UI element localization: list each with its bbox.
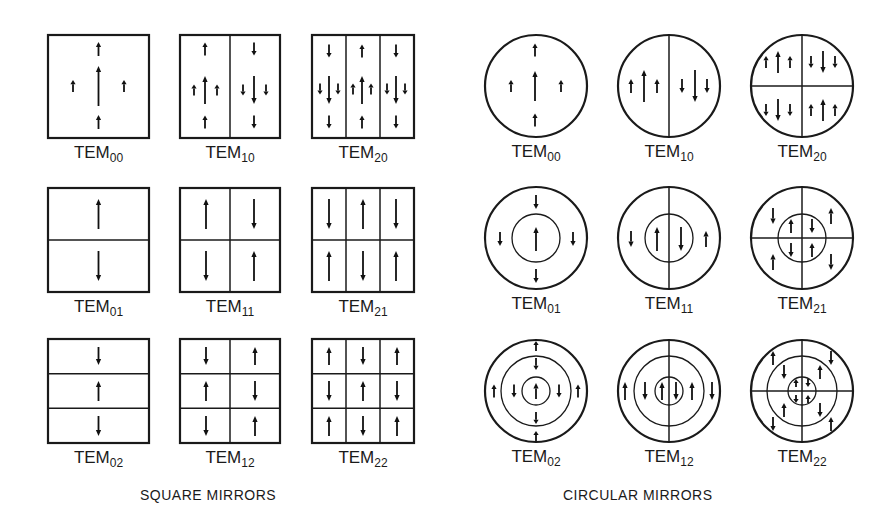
arrow-down-icon (533, 269, 538, 283)
arrow-up-icon (203, 381, 208, 401)
arrow-down-icon (393, 199, 398, 229)
arrow-up-icon (326, 347, 331, 365)
arrow-up-icon (703, 231, 708, 247)
arrow-down-icon (788, 243, 793, 257)
arrow-down-icon (673, 382, 678, 400)
arrow-up-icon (96, 115, 101, 129)
circular-mirrors-caption: CIRCULAR MIRRORS (563, 487, 713, 503)
arrow-up-icon (805, 395, 810, 403)
arrow-up-icon (202, 116, 207, 129)
circular-mode-tem01: TEM01 (485, 187, 587, 316)
arrow-down-icon (384, 84, 389, 95)
arrow-up-icon (96, 381, 101, 401)
arrow-up-icon (828, 417, 833, 431)
arrow-down-icon (360, 347, 365, 365)
mode-label: TEM11 (645, 294, 694, 316)
mode-label: TEM20 (338, 143, 388, 165)
arrow-up-icon (252, 347, 257, 365)
arrow-up-icon (628, 79, 633, 93)
arrow-down-icon (793, 395, 798, 403)
arrow-down-icon (96, 251, 101, 281)
arrow-down-icon (808, 56, 813, 68)
mode-label: TEM21 (338, 297, 388, 319)
arrow-up-icon (96, 42, 101, 56)
arrow-down-icon (692, 70, 697, 102)
arrow-down-icon (326, 116, 331, 129)
arrow-up-icon (558, 80, 563, 92)
arrow-up-icon (575, 385, 580, 398)
arrow-down-icon (533, 412, 538, 424)
arrow-up-icon (360, 199, 365, 229)
arrow-up-icon (820, 99, 825, 121)
arrow-down-icon (556, 385, 561, 398)
mode-label: TEM20 (777, 142, 827, 164)
arrow-up-icon (350, 84, 355, 95)
mode-label: TEM02 (74, 448, 124, 470)
arrow-down-icon (393, 45, 398, 58)
mode-label: TEM10 (644, 142, 694, 164)
arrow-up-icon (368, 84, 373, 95)
square-mode-tem02: TEM02 (48, 339, 149, 470)
square-mode-tem00: TEM00 (48, 35, 149, 165)
arrow-down-icon (533, 195, 538, 209)
arrow-up-icon (793, 379, 798, 387)
arrow-down-icon (678, 227, 683, 251)
arrow-down-icon (335, 84, 340, 95)
square-mode-tem20: TEM20 (312, 35, 414, 165)
arrow-up-icon (654, 79, 659, 93)
arrow-up-icon (641, 70, 646, 102)
arrow-down-icon (393, 76, 398, 104)
mode-label: TEM11 (206, 297, 255, 319)
arrow-down-icon (770, 208, 775, 224)
arrow-up-icon (96, 66, 101, 106)
arrow-up-icon (689, 382, 694, 400)
circular-mode-tem22: TEM22 (751, 340, 853, 469)
square-mode-tem22: TEM22 (312, 339, 414, 470)
arrow-up-icon (202, 43, 207, 56)
square-mode-tem01: TEM01 (48, 188, 149, 319)
mode-label: TEM12 (644, 447, 694, 469)
circular-mode-tem02: TEM02 (485, 340, 587, 469)
arrow-up-icon (191, 85, 196, 96)
arrow-up-icon (788, 219, 793, 233)
arrow-up-icon (394, 347, 399, 365)
arrow-down-icon (251, 199, 256, 229)
arrow-down-icon (96, 416, 101, 436)
arrow-up-icon (533, 341, 538, 351)
mode-label: TEM00 (511, 142, 561, 164)
arrow-down-icon (570, 232, 575, 246)
arrow-up-icon (359, 45, 364, 58)
circular-mode-tem11: TEM11 (618, 187, 720, 316)
circular-mode-tem21: TEM21 (751, 187, 853, 316)
arrow-up-icon (491, 385, 496, 398)
arrow-up-icon (532, 71, 537, 101)
arrow-up-icon (121, 80, 126, 92)
arrow-up-icon (533, 227, 538, 251)
arrow-down-icon (326, 45, 331, 58)
arrow-down-icon (203, 347, 208, 365)
arrow-up-icon (532, 114, 537, 127)
arrow-up-icon (203, 199, 208, 229)
mode-label: TEM10 (205, 143, 255, 165)
arrow-up-icon (533, 383, 538, 399)
arrow-down-icon (770, 417, 775, 431)
arrow-down-icon (828, 254, 833, 270)
arrow-up-icon (817, 365, 822, 379)
arrow-down-icon (251, 43, 256, 56)
arrow-up-icon (622, 382, 627, 400)
arrow-up-icon (770, 351, 775, 365)
arrow-down-icon (775, 99, 780, 121)
mode-label: TEM00 (74, 143, 124, 165)
square-mode-tem12: TEM12 (180, 339, 280, 470)
arrow-down-icon (263, 85, 268, 96)
arrow-up-icon (770, 254, 775, 270)
arrow-up-icon (326, 416, 331, 436)
arrow-up-icon (533, 431, 538, 441)
arrow-up-icon (202, 76, 207, 104)
arrow-down-icon (679, 79, 684, 93)
arrow-up-icon (808, 104, 813, 116)
arrow-down-icon (252, 381, 257, 401)
square-mode-tem11: TEM11 (180, 188, 280, 319)
arrow-up-icon (775, 51, 780, 73)
circular-mode-tem10: TEM10 (618, 35, 720, 164)
